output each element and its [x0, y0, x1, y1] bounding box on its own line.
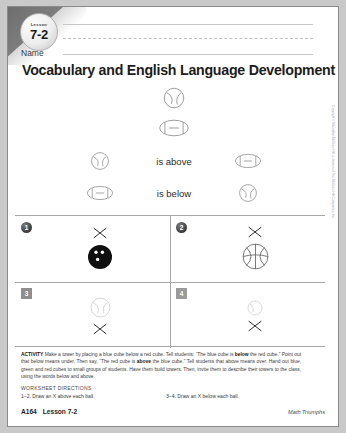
- football-icon: [81, 181, 119, 205]
- baseball-icon: [87, 294, 114, 321]
- football-icon: [154, 115, 194, 145]
- demo-below-row: is below: [8, 181, 339, 205]
- x-mark-icon: [91, 322, 109, 336]
- exercise-art-1: [55, 216, 145, 282]
- activity-bold-above: above: [137, 359, 151, 364]
- copyright-notice: Copyright © Macmillan/McGraw-Hill, a div…: [331, 105, 335, 225]
- demo-stack-bottom-row: [8, 115, 339, 145]
- name-label: Name: [21, 48, 44, 58]
- exercise-number-badge-1: 1: [21, 222, 32, 233]
- demo-above-row: is above: [8, 149, 339, 173]
- exercise-cell-4[interactable]: 4: [170, 282, 325, 348]
- demo-below-left-ball: [69, 181, 131, 205]
- exercise-cell-2[interactable]: 2: [170, 216, 325, 282]
- demo-below-word: is below: [131, 188, 217, 199]
- worksheet-page: Lesson 7-2 Name Vocabulary and English L…: [7, 6, 339, 427]
- exercise-art-4: [210, 282, 300, 348]
- x-mark-icon: [91, 226, 109, 240]
- demo-illustration: is above is below: [8, 83, 339, 215]
- worksheet-directions-heading: WORKSHEET DIRECTIONS: [21, 385, 92, 391]
- exercise-art-3: [55, 282, 145, 348]
- bowling-ball-icon: [84, 241, 116, 273]
- name-rule-bottom: [63, 54, 313, 55]
- name-rule-dashed: [63, 38, 313, 39]
- exercise-number-badge-4: 4: [176, 288, 187, 299]
- activity-label: ACTIVITY: [21, 352, 43, 357]
- football-icon: [229, 149, 267, 173]
- x-mark-icon: [246, 225, 264, 239]
- baseball-icon: [88, 149, 112, 173]
- basketball-icon: [239, 240, 272, 273]
- lesson-badge: Lesson 7-2: [20, 13, 58, 51]
- exercise-number-badge-2: 2: [176, 222, 187, 233]
- footer-series-title: Math Triumphs: [288, 409, 325, 415]
- exercise-cell-1[interactable]: 1: [15, 216, 170, 282]
- baseball-icon: [161, 85, 187, 115]
- demo-above-right-ball: [217, 149, 279, 173]
- footer-left: A164Lesson 7-2: [21, 408, 77, 415]
- demo-above-word: is above: [131, 156, 217, 167]
- demo-stack-top-row: [8, 85, 339, 115]
- name-rule-top: [63, 24, 313, 25]
- exercise-number-badge-3: 3: [21, 288, 32, 299]
- x-mark-icon: [246, 319, 264, 333]
- activity-text-1: Make a tower by placing a blue cube belo…: [43, 352, 234, 357]
- footer-lesson: Lesson 7-2: [43, 408, 77, 415]
- activity-paragraph: ACTIVITY Make a tower by placing a blue …: [21, 351, 301, 381]
- page-title: Vocabulary and English Language Developm…: [22, 62, 327, 78]
- tennis-ball-icon: [245, 298, 265, 318]
- lesson-badge-number: 7-2: [30, 28, 48, 41]
- worksheet-directions-right: 3–4. Draw an X below each ball.: [166, 393, 239, 399]
- exercise-grid: 1 2: [15, 215, 325, 347]
- demo-above-left-ball: [69, 149, 131, 173]
- footer-page-number: A164: [21, 408, 37, 415]
- exercise-cell-3[interactable]: 3: [15, 282, 170, 348]
- baseball-icon: [236, 181, 260, 205]
- exercise-art-2: [210, 216, 300, 282]
- worksheet-directions-left: 1–2. Draw an X above each ball.: [21, 393, 95, 399]
- demo-below-right-ball: [217, 181, 279, 205]
- activity-bold-below: below: [235, 352, 249, 357]
